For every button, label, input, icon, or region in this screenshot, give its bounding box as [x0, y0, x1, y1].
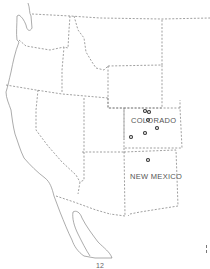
location-marker: [144, 132, 147, 135]
location-marker: [148, 111, 151, 114]
location-marker: [130, 136, 133, 139]
location-marker: [147, 159, 150, 162]
location-marker: [144, 110, 147, 113]
page-number: 12: [96, 262, 104, 269]
margin-mark: [206, 250, 207, 253]
label-new-mexico: NEW MEXICO: [130, 172, 182, 181]
margin-mark: [206, 245, 207, 248]
colorado-border: [124, 108, 182, 148]
label-colorado: COLORADO: [131, 116, 176, 125]
western-us-map: [0, 0, 210, 269]
new-mexico-border: [110, 150, 178, 216]
canada-border: [32, 14, 210, 19]
location-marker: [156, 127, 159, 130]
coastline: [6, 3, 112, 258]
